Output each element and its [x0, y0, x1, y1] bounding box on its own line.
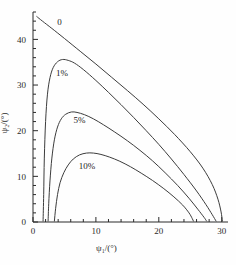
curve-series-1	[43, 59, 216, 221]
y-tick-label: 20	[17, 126, 27, 136]
chart-canvas: 0102030400102030 01%5%10%	[0, 0, 236, 265]
curve-series-3	[54, 153, 193, 221]
x-tick-label: 10	[91, 226, 101, 236]
y-axis-title: ψ₂/(°)	[0, 113, 9, 134]
curve-labels-group: 01%5%10%	[56, 17, 96, 171]
x-tick-label: 30	[217, 226, 227, 236]
y-tick-label: 30	[17, 80, 27, 90]
chart-figure: 0102030400102030 01%5%10% ψ₂/(°) ψ₁/(°)	[0, 0, 236, 265]
x-tick-label: 20	[154, 226, 164, 236]
curve-label: 1%	[56, 68, 69, 78]
y-tick-label: 40	[17, 35, 27, 45]
x-tick-label: 0	[31, 226, 36, 236]
y-tick-label: 10	[17, 172, 27, 182]
curve-label: 10%	[79, 161, 96, 171]
curve-series-0	[37, 17, 223, 222]
curve-label: 5%	[74, 115, 87, 125]
curves-group	[37, 17, 223, 222]
curve-label: 0	[57, 17, 62, 27]
y-tick-label: 0	[22, 217, 27, 227]
x-axis-title: ψ₁/(°)	[96, 243, 117, 253]
